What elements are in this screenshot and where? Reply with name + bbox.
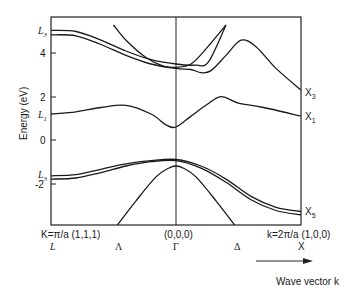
x-point-L: L — [49, 241, 56, 252]
label-L1: L1 — [37, 109, 47, 123]
label-L3-top: L3 — [37, 25, 48, 39]
x-point-Gamma: Γ — [173, 241, 179, 252]
y-tick-2: 2 — [40, 92, 46, 103]
x-point-Lambda: Λ — [115, 241, 123, 252]
x-coord-gamma: (0,0,0) — [164, 229, 193, 240]
arrow-head-icon — [303, 258, 313, 264]
x-axis-label: Wave vector k — [276, 276, 340, 287]
x-coord-L: K=π/a (1,1,1) — [41, 229, 100, 240]
y-ticks — [51, 53, 56, 184]
x-point-X: X — [298, 241, 305, 252]
x-coord-X: k=2π/a (1,0,0) — [267, 229, 330, 240]
y-tick-4: 4 — [40, 48, 46, 59]
band-structure-chart: 4 2 0 -2 L3 L1 L3 X3 X1 X5 Energy (eV) K… — [0, 0, 357, 292]
label-X1: X1 — [305, 111, 316, 124]
label-X5: X5 — [305, 206, 316, 219]
y-tick-0: 0 — [40, 135, 46, 146]
label-X3: X3 — [305, 87, 316, 100]
x-point-Delta: Δ — [234, 241, 241, 252]
y-axis-label: Energy (eV) — [18, 87, 29, 140]
